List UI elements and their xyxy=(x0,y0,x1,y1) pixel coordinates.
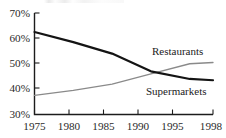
x-axis-tick-label-5: 1998 xyxy=(200,120,223,132)
x-axis-tick-label-4: 1995 xyxy=(161,120,184,132)
x-axis-tick-label-0: 1975 xyxy=(23,120,46,132)
chart-plot-area: 70% 60% 50% 40% 30% Restaurants Supermar… xyxy=(0,0,226,138)
line-chart: 70% 60% 50% 40% 30% Restaurants Supermar… xyxy=(0,0,226,138)
y-axis-tick-label-1: 60% xyxy=(9,32,30,44)
x-axis-tick-label-1: 1980 xyxy=(58,120,81,132)
x-axis-tick-label-2: 1985 xyxy=(92,120,115,132)
series-label-restaurants: Restaurants xyxy=(152,45,203,57)
series-label-supermarkets: Supermarkets xyxy=(146,85,206,97)
y-axis-tick-label-2: 50% xyxy=(9,57,30,69)
axis-frame xyxy=(35,13,214,115)
y-axis-tick-label-4: 30% xyxy=(9,108,30,120)
x-axis-tick-label-3: 1990 xyxy=(127,120,150,132)
y-axis-tick-label-3: 40% xyxy=(9,82,30,94)
y-axis-tick-label-0: 70% xyxy=(9,7,30,19)
